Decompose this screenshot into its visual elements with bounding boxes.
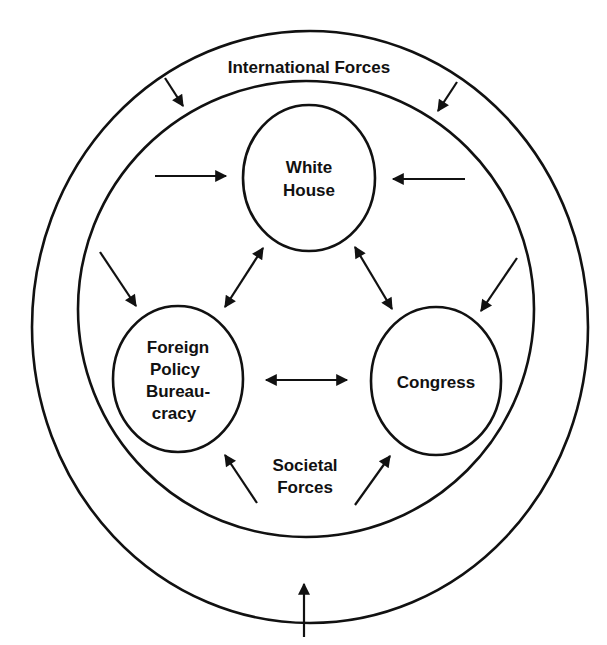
double-arrow-icon <box>225 248 263 307</box>
arrow-icon <box>355 456 390 505</box>
societal-forces-label-line1: Societal <box>272 456 337 475</box>
foreign-policy-label-line1: Foreign <box>147 338 209 357</box>
arrow-icon <box>100 252 136 306</box>
arrow-icon <box>481 258 517 311</box>
arrow-icon <box>438 82 457 111</box>
node-foreign-policy-bureaucracy: Foreign Policy Bureau- cracy <box>113 306 243 452</box>
node-congress: Congress <box>371 307 501 455</box>
white-house-circle <box>243 105 375 251</box>
international-forces-label: International Forces <box>228 58 390 77</box>
foreign-policy-label-line2: Policy <box>150 360 201 379</box>
foreign-policy-circle <box>113 306 243 452</box>
inter-node-arrows <box>225 247 392 380</box>
node-white-house: White House <box>243 105 375 251</box>
foreign-policy-label-line4: cracy <box>152 404 197 423</box>
white-house-label-line2: House <box>283 181 335 200</box>
arrow-icon <box>165 78 183 106</box>
societal-forces-label-line2: Forces <box>277 478 333 497</box>
double-arrow-icon <box>355 247 392 309</box>
foreign-policy-label-line3: Bureau- <box>146 382 210 401</box>
arrow-icon <box>225 455 257 503</box>
congress-label: Congress <box>397 373 475 392</box>
foreign-policy-diagram: International Forces White House Foreign… <box>0 0 607 645</box>
white-house-label-line1: White <box>286 158 332 177</box>
